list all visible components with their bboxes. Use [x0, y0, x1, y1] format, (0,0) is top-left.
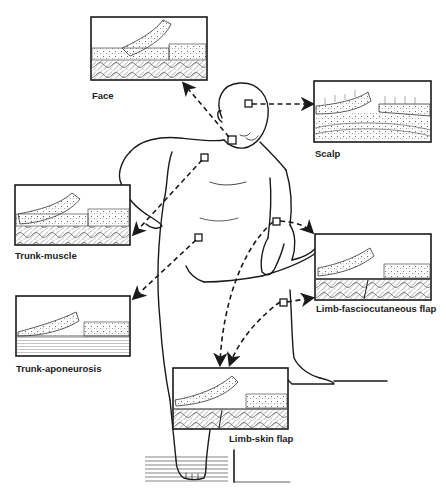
marker-trunk-muscle: [201, 154, 208, 161]
marker-trunk-aponeurosis: [195, 234, 202, 241]
label-face: Face: [92, 90, 114, 101]
donor-site-markers: [195, 100, 287, 306]
arrow-to-limb-skin-lower: [230, 302, 280, 364]
label-limb-skin: Limb-skin flap: [229, 433, 293, 444]
label-limb-fasciocutaneous: Limb-fasciocutaneous flap: [316, 303, 436, 314]
floor-lines: [145, 457, 228, 481]
marker-limb-lower: [280, 299, 287, 306]
panel-face: [91, 17, 207, 80]
panel-scalp: [314, 81, 431, 142]
panel-trunk-muscle: [15, 185, 130, 245]
panel-limb-fasciocutaneous: [315, 234, 431, 300]
marker-limb-upper: [273, 218, 280, 225]
panel-limb-skin: [173, 368, 288, 429]
label-trunk-muscle: Trunk-muscle: [15, 250, 77, 261]
flap-diagram: Face Scalp Trunk-muscle Trunk-aponeurosi…: [0, 0, 446, 499]
marker-face: [228, 136, 236, 144]
label-scalp: Scalp: [315, 148, 340, 159]
marker-scalp: [245, 100, 252, 107]
label-trunk-aponeurosis: Trunk-aponeurosis: [16, 363, 102, 374]
arrow-to-limb-fascio-upper: [280, 221, 312, 232]
panel-trunk-aponeurosis: [16, 296, 130, 356]
